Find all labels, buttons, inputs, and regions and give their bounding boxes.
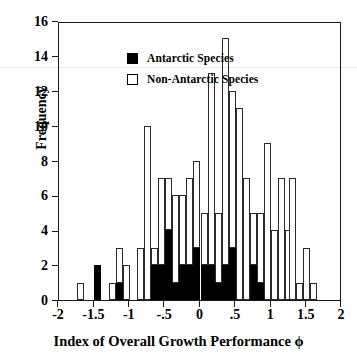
y-axis-tick-label: 6 [8, 189, 48, 203]
histogram-figure: Frequency 0246810121416 Antarctic Specie… [0, 0, 357, 359]
bar-segment-non-antarctic [236, 108, 243, 300]
bar-segment-non-antarctic [215, 213, 222, 283]
histogram-bar [243, 178, 250, 300]
histogram-bar [229, 91, 236, 300]
bar-segment-non-antarctic [144, 126, 151, 300]
histogram-bar [193, 161, 200, 301]
bar-segment-non-antarctic [250, 213, 257, 265]
bar-segment-non-antarctic [109, 283, 116, 300]
histogram-bar [271, 230, 278, 300]
x-axis-tick-label: .5 [215, 308, 255, 322]
legend-label-antarctic: Antarctic Species [147, 52, 234, 64]
histogram-bar [236, 108, 243, 300]
bar-segment-non-antarctic [243, 178, 250, 300]
bar-segment-non-antarctic [186, 178, 193, 265]
bar-segment-non-antarctic [296, 283, 303, 300]
histogram-bar [310, 283, 317, 300]
histogram-bar [278, 178, 285, 300]
y-axis-tick-label: 14 [8, 50, 48, 64]
histogram-bar [257, 213, 264, 300]
histogram-bar [201, 213, 208, 300]
legend-item-antarctic: Antarctic Species [127, 49, 258, 67]
bar-segment-non-antarctic [151, 248, 158, 265]
bar-segment-antarctic [193, 248, 200, 300]
bar-segment-antarctic [151, 265, 158, 300]
histogram-bar [165, 178, 172, 300]
bar-segment-non-antarctic [123, 265, 130, 300]
y-axis-tick-label: 2 [8, 259, 48, 273]
plot-area: Antarctic Species Non-Antarctic Species [58, 22, 341, 301]
legend: Antarctic Species Non-Antarctic Species [127, 49, 258, 91]
histogram-bar [109, 283, 116, 300]
x-axis-title: Index of Overall Growth Performance ϕ [0, 333, 357, 350]
bar-segment-non-antarctic [137, 248, 144, 300]
histogram-bar [296, 283, 303, 300]
histogram-bar [158, 178, 165, 300]
bar-segment-antarctic [186, 265, 193, 300]
bar-segment-antarctic [116, 283, 123, 300]
legend-label-non-antarctic: Non-Antarctic Species [147, 73, 258, 85]
x-axis-tick-label: 2 [321, 308, 357, 322]
bar-segment-non-antarctic [165, 178, 172, 230]
bar-segment-antarctic [201, 265, 208, 300]
bar-segment-non-antarctic [303, 248, 310, 300]
bar-segment-antarctic [172, 283, 179, 300]
histogram-bar [303, 248, 310, 300]
x-axis-tick-label: 1.5 [286, 308, 326, 322]
histogram-bar [264, 143, 271, 300]
y-axis-tick-label: 8 [8, 155, 48, 169]
bar-segment-non-antarctic [172, 195, 179, 282]
histogram-bar [250, 213, 257, 300]
histogram-bar [186, 178, 193, 300]
y-axis-tick-label: 10 [8, 120, 48, 134]
bar-segment-antarctic [165, 230, 172, 300]
bar-segment-antarctic [215, 283, 222, 300]
y-axis-tick-label: 16 [8, 15, 48, 29]
bar-segment-non-antarctic [271, 230, 278, 300]
histogram-bar [179, 195, 186, 300]
bar-segment-non-antarctic [289, 178, 296, 300]
bar-segment-antarctic [158, 265, 165, 300]
x-axis-tick-label: -2 [38, 308, 78, 322]
bar-segment-antarctic [229, 248, 236, 300]
bar-segment-non-antarctic [278, 178, 285, 300]
legend-swatch-open-icon [127, 74, 138, 85]
y-axis-tick-label: 0 [8, 294, 48, 308]
bar-segment-antarctic [179, 265, 186, 300]
histogram-bar [123, 265, 130, 300]
histogram-bar [151, 248, 158, 300]
bar-segment-non-antarctic [179, 195, 186, 265]
histogram-bar [208, 73, 215, 300]
histogram-bar [215, 213, 222, 300]
bar-segment-non-antarctic [310, 283, 317, 300]
bar-segment-non-antarctic [201, 213, 208, 265]
x-axis-tick-label: 1 [250, 308, 290, 322]
bar-segment-antarctic [208, 265, 215, 300]
histogram-bar [116, 248, 123, 300]
x-axis-tick-label: 0 [180, 308, 220, 322]
histogram-bar [137, 248, 144, 300]
x-axis-tick-label: -1 [109, 308, 149, 322]
bar-segment-antarctic [222, 265, 229, 300]
histogram-bar [289, 178, 296, 300]
bar-segment-non-antarctic [158, 178, 165, 265]
legend-swatch-filled-icon [127, 53, 138, 64]
bar-segment-non-antarctic [264, 143, 271, 300]
bar-segment-antarctic [94, 265, 101, 300]
histogram-bar [144, 126, 151, 300]
bar-segment-non-antarctic [116, 248, 123, 283]
x-axis-tick-label: -.5 [144, 308, 184, 322]
histogram-bar [77, 283, 84, 300]
y-axis-tick-label: 4 [8, 224, 48, 238]
bar-segment-non-antarctic [77, 283, 84, 300]
bar-segment-non-antarctic [193, 161, 200, 248]
bar-segment-non-antarctic [229, 91, 236, 248]
histogram-bar [94, 265, 101, 300]
bar-segment-antarctic [250, 265, 257, 300]
bar-segment-antarctic [257, 283, 264, 300]
bar-segment-non-antarctic [257, 213, 264, 283]
y-axis-tick-label: 12 [8, 85, 48, 99]
x-axis-tick-label: -1.5 [73, 308, 113, 322]
legend-item-non-antarctic: Non-Antarctic Species [127, 70, 258, 88]
bar-segment-non-antarctic [208, 73, 215, 265]
